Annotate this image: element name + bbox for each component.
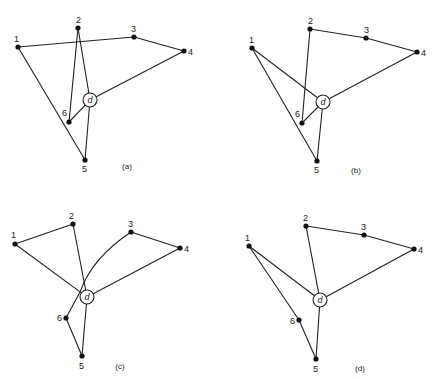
node-6 bbox=[63, 315, 68, 320]
node-3 bbox=[128, 229, 133, 234]
edge-3-6 bbox=[66, 232, 131, 318]
node-label-6: 6 bbox=[295, 109, 300, 119]
node-label-4: 4 bbox=[184, 244, 189, 254]
edge-d-5 bbox=[317, 109, 322, 161]
edge-2-d bbox=[73, 224, 86, 290]
edge-3-4 bbox=[131, 232, 180, 248]
panel-a: 123456d(a) bbox=[14, 15, 193, 174]
node-label-3: 3 bbox=[128, 219, 133, 229]
node-2 bbox=[70, 221, 75, 226]
edge-d-5 bbox=[85, 107, 89, 160]
node-4 bbox=[414, 49, 419, 54]
node-2 bbox=[307, 26, 312, 31]
node-5 bbox=[313, 356, 318, 361]
node-label-2: 2 bbox=[308, 16, 313, 26]
node-4 bbox=[181, 48, 186, 53]
panel-caption: (b) bbox=[351, 166, 361, 175]
panel-c: 123456d(c) bbox=[11, 211, 189, 371]
node-label-6: 6 bbox=[57, 313, 62, 323]
panel-d: 123456d(d) bbox=[245, 213, 423, 374]
node-5 bbox=[314, 158, 319, 163]
edge-1-2 bbox=[15, 224, 73, 244]
edge-3-4 bbox=[364, 235, 414, 249]
node-6 bbox=[296, 317, 301, 322]
node-5 bbox=[82, 157, 87, 162]
node-label-1: 1 bbox=[249, 35, 254, 45]
edge-6-d bbox=[302, 107, 318, 123]
panel-b: 123456d(b) bbox=[249, 16, 426, 175]
edge-1-d bbox=[15, 244, 81, 293]
node-4 bbox=[411, 246, 416, 251]
node-4 bbox=[177, 245, 182, 250]
route-diagrams: 123456d(a)123456d(b)123456d(c)123456d(d) bbox=[0, 0, 436, 379]
node-6 bbox=[299, 120, 304, 125]
node-label-4: 4 bbox=[418, 245, 423, 255]
node-label-3: 3 bbox=[364, 25, 369, 35]
node-label-1: 1 bbox=[11, 230, 16, 240]
node-label-6: 6 bbox=[62, 108, 67, 118]
node-3 bbox=[361, 232, 366, 237]
node-label-3: 3 bbox=[361, 222, 366, 232]
node-label-2: 2 bbox=[69, 211, 74, 221]
panel-caption: (d) bbox=[355, 364, 365, 373]
node-1 bbox=[246, 243, 251, 248]
node-3 bbox=[131, 34, 136, 39]
node-6 bbox=[66, 119, 71, 124]
node-3 bbox=[363, 35, 368, 40]
node-label-2: 2 bbox=[76, 15, 81, 25]
node-label-5: 5 bbox=[314, 165, 319, 175]
panel-caption: (c) bbox=[115, 362, 125, 371]
node-label-4: 4 bbox=[421, 48, 426, 58]
edge-2-d bbox=[306, 226, 319, 293]
node-label-5: 5 bbox=[79, 361, 84, 371]
edge-3-4 bbox=[366, 38, 417, 52]
edge-d-5 bbox=[316, 307, 320, 359]
edge-5-d bbox=[82, 304, 86, 356]
edge-1-6 bbox=[249, 246, 299, 320]
node-label-6: 6 bbox=[290, 316, 295, 326]
edge-4-d bbox=[326, 249, 414, 297]
edge-4-d bbox=[96, 51, 184, 97]
edge-2-d bbox=[78, 28, 89, 93]
edge-6-5 bbox=[299, 320, 316, 359]
edge-2-3 bbox=[310, 29, 366, 38]
node-label-3: 3 bbox=[131, 24, 136, 34]
node-label-1: 1 bbox=[14, 34, 19, 44]
node-2 bbox=[303, 223, 308, 228]
edge-2-3 bbox=[306, 226, 364, 235]
node-1 bbox=[12, 241, 17, 246]
node-label-4: 4 bbox=[188, 47, 193, 57]
node-label-2: 2 bbox=[303, 213, 308, 223]
node-5 bbox=[79, 353, 84, 358]
edge-1-d bbox=[249, 246, 314, 296]
panel-caption: (a) bbox=[122, 162, 132, 171]
node-label-1: 1 bbox=[245, 233, 250, 243]
edge-4-d bbox=[329, 52, 417, 99]
node-1 bbox=[15, 44, 20, 49]
edge-4-d bbox=[93, 248, 180, 294]
edge-6-5 bbox=[66, 318, 82, 356]
edge-2-6 bbox=[302, 29, 310, 123]
edge-6-d bbox=[69, 105, 85, 122]
node-label-5: 5 bbox=[82, 164, 87, 174]
edge-3-4 bbox=[134, 37, 184, 51]
node-2 bbox=[75, 25, 80, 30]
node-label-5: 5 bbox=[313, 364, 318, 374]
node-1 bbox=[249, 45, 254, 50]
